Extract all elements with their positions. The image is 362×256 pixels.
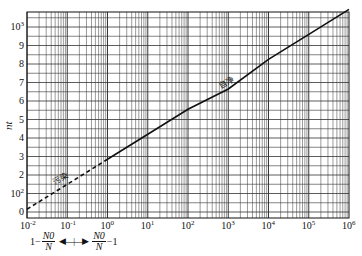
grid xyxy=(27,12,349,218)
x-tick-label: 106 xyxy=(342,219,356,231)
y-tick-label: 103 xyxy=(11,20,25,32)
x-tick-label: 105 xyxy=(302,219,316,231)
y-tick-label: 5 xyxy=(19,114,24,125)
x-tick-label: 102 xyxy=(181,219,195,231)
fraction-right-numerator: N0 xyxy=(92,231,106,242)
y-tick-label: 0 xyxy=(19,206,24,217)
x-tick-label: 104 xyxy=(262,219,276,231)
y-tick-label: 102 xyxy=(11,187,25,199)
y-tick-label: 6 xyxy=(19,95,24,106)
x-tick-label: 101 xyxy=(141,219,155,231)
fraction-right-denominator: N xyxy=(96,242,103,252)
y-axis-label: nt xyxy=(2,121,14,131)
y-axis-ticks: 010223456789103 xyxy=(11,20,25,217)
x-axis-formula: 1− N0 N ◀—|—▶ N0 N −1 xyxy=(30,228,117,254)
formula-left-one: 1− xyxy=(30,236,41,247)
y-tick-label: 8 xyxy=(19,58,24,69)
chart-svg: 10-210-1100101102103104105106 0102234567… xyxy=(0,0,362,256)
fraction-left-numerator: N0 xyxy=(42,231,56,242)
fraction-right: N0 N xyxy=(92,231,106,252)
y-tick-label: 2 xyxy=(19,169,24,180)
fraction-left: N0 N xyxy=(42,231,56,252)
fraction-left-denominator: N xyxy=(45,242,52,252)
y-tick-label: 4 xyxy=(19,132,24,143)
x-tick-label: 103 xyxy=(221,219,235,231)
y-tick-label: 9 xyxy=(19,40,24,51)
formula-right-tail: −1 xyxy=(107,236,118,247)
y-tick-label: 7 xyxy=(19,77,24,88)
double-arrow-icon: ◀—|—▶ xyxy=(59,236,88,246)
y-tick-label: 3 xyxy=(19,151,24,162)
